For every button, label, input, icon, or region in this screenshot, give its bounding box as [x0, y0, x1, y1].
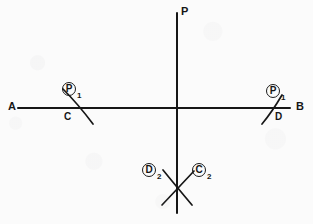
arc-marker-d2-lower-left: D 2 — [142, 163, 161, 177]
arc-marker-letter: P — [266, 84, 280, 98]
arc-marker-subscript: 2 — [157, 173, 161, 181]
arc-marker-c2-lower-right: C 2 — [192, 163, 211, 177]
label-point-c: C — [64, 112, 71, 122]
label-point-b: B — [296, 101, 304, 112]
label-point-a: A — [8, 101, 16, 112]
label-point-d: D — [275, 112, 282, 122]
arc-marker-subscript: 1 — [281, 94, 285, 102]
arc-marker-subscript: 2 — [207, 173, 211, 181]
arc-marker-letter: D — [142, 163, 156, 177]
figure-canvas: A B P C D P 1 P 1 D 2 C 2 — [0, 0, 313, 224]
arc-marker-letter: C — [192, 163, 206, 177]
arc-marker-letter: P — [62, 82, 76, 96]
arc-marker-p1-left: P 1 — [62, 82, 81, 96]
arc-marker-p1-right: P 1 — [266, 84, 285, 98]
arc-marker-subscript: 1 — [77, 92, 81, 100]
construction-drawing — [0, 0, 313, 224]
label-point-p: P — [181, 6, 188, 17]
